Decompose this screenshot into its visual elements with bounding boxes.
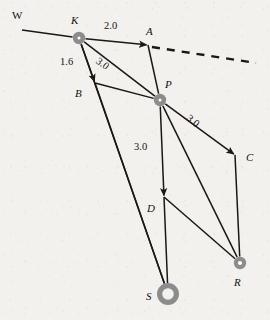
edge-p-c xyxy=(165,104,234,154)
edge-k-a xyxy=(85,39,146,45)
node-label-c: C xyxy=(246,152,253,163)
node-layer xyxy=(73,32,246,303)
node-label-d: D xyxy=(147,203,155,214)
node-label-w: W xyxy=(12,10,22,21)
edge-d-r xyxy=(164,197,235,259)
node-label-k: K xyxy=(71,15,78,26)
edge-w-k xyxy=(22,30,73,37)
graph-canvas xyxy=(0,0,270,320)
edge-weight-pd: 3.0 xyxy=(134,142,147,153)
edge-a-p xyxy=(148,45,159,94)
edge-d-s xyxy=(164,197,168,283)
edge-b-p xyxy=(95,83,154,98)
graph-figure: WKABPCDRS2.01.63.03.03.0 xyxy=(0,0,270,320)
edge-layer xyxy=(22,30,256,284)
node-label-r: R xyxy=(234,277,241,288)
node-label-a: A xyxy=(146,26,153,37)
node-r[interactable] xyxy=(234,257,246,269)
node-label-b: B xyxy=(75,88,82,99)
node-label-s: S xyxy=(146,291,152,302)
node-label-p: P xyxy=(165,79,172,90)
node-k[interactable] xyxy=(73,32,85,44)
edge-c-r xyxy=(235,155,240,257)
edge-a-ray-end xyxy=(152,47,256,63)
node-p[interactable] xyxy=(154,94,166,106)
edge-b-s xyxy=(95,83,164,284)
node-s[interactable] xyxy=(160,286,177,303)
edge-p-d xyxy=(160,106,164,195)
edge-weight-kb: 1.6 xyxy=(60,57,73,68)
edge-k-p xyxy=(84,42,155,96)
edge-weight-ka: 2.0 xyxy=(104,21,117,32)
